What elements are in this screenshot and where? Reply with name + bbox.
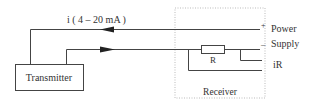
resistor (202, 46, 225, 54)
ir-upper-wire (241, 50, 263, 61)
current-loop-diagram: i ( 4 – 20 mA ) Transmitter R Receiver +… (0, 0, 315, 105)
supply-label: Supply (271, 38, 299, 49)
ir-label: iR (273, 59, 283, 70)
bottom-wire (67, 50, 202, 65)
power-label: Power (271, 23, 297, 34)
plus-sign: + (261, 21, 266, 30)
arrow-right-icon (100, 47, 115, 53)
top-wire (31, 30, 261, 65)
current-label: i ( 4 – 20 mA ) (67, 14, 126, 26)
transmitter-label: Transmitter (26, 72, 73, 83)
resistor-label: R (210, 55, 216, 65)
arrow-left-icon (100, 27, 114, 33)
receiver-label: Receiver (203, 87, 238, 97)
minus-sign: – (260, 39, 266, 49)
